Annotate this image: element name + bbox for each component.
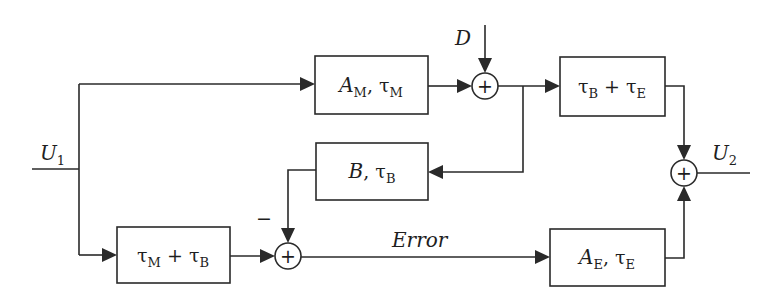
svg-text:+: +	[477, 75, 493, 97]
error-label: Error	[391, 228, 449, 252]
summing-junction-3: +	[671, 160, 697, 186]
block-tb-plus-te: τB + τE	[560, 57, 665, 116]
summing-junction-2: +	[275, 243, 301, 269]
block-b-tb: B, τB	[316, 143, 428, 200]
summing-junction-1: +	[472, 73, 498, 99]
block-ae: AE, τE	[550, 229, 665, 286]
block-diagram: AM, τM τB + τE B, τB τM + τB AE, τE + +	[0, 0, 777, 306]
u2-label: U2	[712, 141, 737, 168]
arrow-bottom-into-sum3	[677, 186, 691, 201]
tbte-to-sum3-wire	[665, 86, 684, 148]
u1-label: U1	[40, 141, 65, 168]
arrow-into-sum2	[260, 249, 275, 263]
block-tm-plus-tb: τM + τB	[117, 227, 230, 283]
arrow-into-ae	[535, 250, 550, 264]
arrow-into-tbte	[545, 79, 560, 93]
minus-sign: −	[256, 207, 272, 229]
d-label: D	[454, 26, 471, 50]
b-to-sum2-wire	[288, 170, 316, 231]
ae-to-sum3-wire	[665, 198, 684, 258]
svg-text:+: +	[280, 245, 296, 267]
arrow-into-tmtb	[102, 248, 117, 262]
arrow-into-b	[428, 165, 443, 179]
arrow-into-am	[300, 77, 315, 91]
arrow-top-into-sum3	[677, 145, 691, 160]
arrow-d-into-sum1	[478, 58, 492, 73]
arrow-b-into-sum2	[281, 228, 295, 243]
arrow-into-sum1	[457, 79, 472, 93]
block-am: AM, τM	[315, 56, 428, 114]
svg-text:+: +	[676, 162, 692, 184]
